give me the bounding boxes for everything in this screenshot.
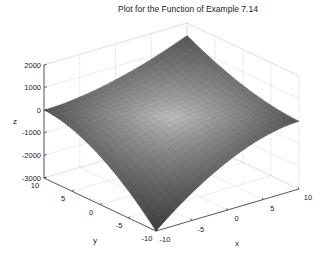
x-tick-label: -5	[197, 225, 204, 234]
z-tick-label: -1000	[22, 128, 41, 137]
chart-title: Plot for the Function of Example 7.14	[118, 4, 258, 14]
z-axis-label: z	[13, 117, 17, 126]
z-tick-label: 1000	[24, 83, 41, 92]
y-tick-label: -10	[142, 234, 153, 243]
z-tick-label: 2000	[24, 61, 41, 70]
x-tick-label: -10	[160, 235, 171, 244]
y-axis-label: y	[93, 236, 97, 245]
figure: -3000-2000-1000010002000-10-50510-10-505…	[0, 0, 321, 257]
x-axis-label: x	[235, 239, 239, 248]
y-tick-label: 5	[61, 194, 65, 203]
surface-plot: -3000-2000-1000010002000-10-50510-10-505…	[0, 0, 321, 257]
z-tick-label: -2000	[22, 151, 41, 160]
y-tick-label: 0	[89, 208, 93, 217]
x-tick-label: 5	[270, 204, 274, 213]
x-tick-label: 0	[234, 214, 238, 223]
y-tick-label: -5	[116, 221, 123, 230]
y-tick-label: 10	[31, 181, 39, 190]
x-tick-label: 10	[304, 193, 312, 202]
z-tick-label: 0	[37, 106, 41, 115]
surface	[44, 36, 299, 232]
